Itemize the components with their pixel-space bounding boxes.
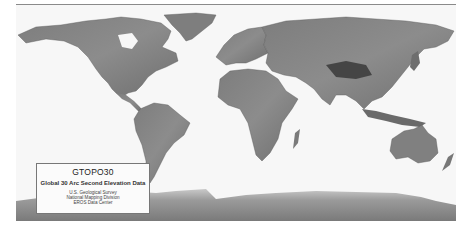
island-new-zealand [442, 153, 454, 171]
continent-north-america [18, 17, 178, 97]
island-madagascar [293, 129, 300, 149]
world-elevation-map: GTOPO30 Global 30 Arc Second Elevation D… [16, 4, 456, 221]
continent-greenland [164, 13, 216, 41]
legend-box: GTOPO30 Global 30 Arc Second Elevation D… [36, 163, 150, 214]
continent-australia [390, 125, 438, 163]
islands-indonesia [362, 109, 426, 127]
continent-europe [216, 27, 268, 65]
legend-subtitle: Global 30 Arc Second Elevation Data [37, 180, 149, 186]
credit-eros: EROS Data Center [37, 200, 149, 205]
legend-title: GTOPO30 [37, 167, 149, 177]
legend-credits: U.S. Geological Survey National Mapping … [37, 190, 149, 205]
continent-africa [218, 69, 298, 161]
